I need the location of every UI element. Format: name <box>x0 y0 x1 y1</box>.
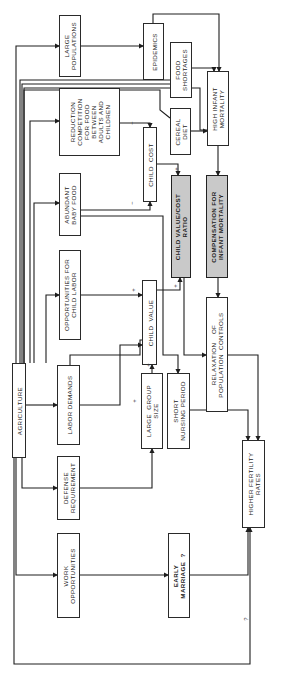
node-child-value-cost-ratio: CHILD VALUE/COST RATIO <box>171 175 191 278</box>
node-label: DEFENSE REQUIREMENT <box>62 463 76 513</box>
node-large-populations: LARGE POPULATIONS <box>59 15 81 77</box>
node-high-infant-mortality: HIGH INFANT MORTALITY <box>207 71 229 146</box>
edge-sign: + <box>131 399 137 403</box>
node-label: SHORT NURSING PERIOD <box>172 381 186 441</box>
node-label: COMPENSATION FOR INFANT MORTALITY <box>210 191 224 262</box>
node-label: CHILD VALUE <box>146 299 153 346</box>
node-label: REDUCTION COMPETITION FOR FOOD BETWEEN A… <box>69 98 111 145</box>
edge-sign: + <box>173 167 179 171</box>
node-label: ABUNDANT BABY FOOD <box>63 185 77 225</box>
node-label: HIGH INFANT MORTALITY <box>211 87 225 131</box>
node-label: OPPORTUNITIES FOR CHILD LABOR <box>63 259 77 331</box>
causal-diagram: AGRICULTURE LARGE POPULATIONS REDUCTION … <box>0 0 282 674</box>
node-compensation-infant-mortality: COMPENSATION FOR INFANT MORTALITY <box>206 175 228 278</box>
node-labor-demands: LABOR DEMANDS <box>57 365 80 445</box>
edge-sign: ? <box>243 617 249 620</box>
edge-sign: − <box>129 121 135 125</box>
node-label: FOOD SHORTAGES <box>174 49 188 91</box>
node-cereal-diet: CEREAL DIET <box>170 108 191 155</box>
node-relaxation-population-controls: RELAXATION OF POPULATION CONTROLS <box>206 297 228 412</box>
node-work-opportunities: WORK OPPORTUNITIES <box>57 533 80 618</box>
node-label: LARGE GROUP SIZE <box>145 385 159 437</box>
node-label: EPIDEMICS <box>150 33 157 71</box>
node-label: LABOR DEMANDS <box>65 376 72 435</box>
node-abundant-baby-food: ABUNDANT BABY FOOD <box>59 173 81 236</box>
node-child-cost: CHILD COST <box>143 127 157 202</box>
node-reduction-competition: REDUCTION COMPETITION FOR FOOD BETWEEN A… <box>59 88 120 156</box>
node-label: CHILD COST <box>147 143 154 187</box>
node-early-marriage: EARLY MARRIAGE ? <box>168 533 190 618</box>
node-label: AGRICULTURE <box>16 386 23 434</box>
node-food-shortages: FOOD SHORTAGES <box>170 42 192 98</box>
node-label: LARGE POPULATIONS <box>63 22 77 70</box>
node-label: WORK OPPORTUNITIES <box>62 548 76 604</box>
node-label: EARLY MARRIAGE ? <box>172 553 186 598</box>
node-label: RELAXATION OF POPULATION CONTROLS <box>210 312 224 397</box>
edge-sign: + <box>172 284 178 288</box>
edge-sign: − <box>129 201 135 205</box>
node-short-nursing-period: SHORT NURSING PERIOD <box>167 373 190 449</box>
node-child-value: CHILD VALUE <box>142 280 157 365</box>
node-epidemics: EPIDEMICS <box>143 23 164 80</box>
node-defense-requirement: DEFENSE REQUIREMENT <box>57 456 80 520</box>
edge-sign: + <box>145 363 151 367</box>
connector-lines <box>0 0 282 674</box>
node-label: CHILD VALUE/COST RATIO <box>174 193 188 259</box>
node-label: CEREAL DIET <box>174 118 188 145</box>
node-agriculture: AGRICULTURE <box>12 363 26 458</box>
node-higher-fertility-rates: HIGHER FERTILITY RATES <box>242 440 265 528</box>
node-large-group-size: LARGE GROUP SIZE <box>141 373 163 449</box>
edge-sign: + <box>130 288 136 292</box>
node-label: HIGHER FERTILITY RATES <box>247 452 261 515</box>
node-opportunities-child-labor: OPPORTUNITIES FOR CHILD LABOR <box>59 250 81 340</box>
